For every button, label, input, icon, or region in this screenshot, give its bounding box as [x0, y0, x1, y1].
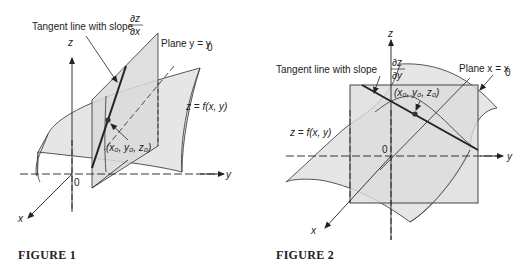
figures-canvas: Tangent line with slope ∂z ∂x Plane y = …: [0, 0, 530, 268]
slope-den-2: ∂y: [392, 70, 403, 81]
axis-z-1: z: [67, 37, 73, 48]
plane-label-2: Plane x = x: [459, 63, 509, 74]
axis-y-1: y: [225, 169, 232, 180]
point-label-1: (x₀, y₀, z₀): [106, 142, 151, 153]
axis-z-2: z: [387, 28, 393, 39]
origin-2: 0: [382, 144, 388, 155]
surface-label-1: z = f(x, y): [185, 101, 227, 112]
caption-2: FIGURE 2: [276, 248, 334, 262]
axis-y-2: y: [506, 151, 513, 162]
point-label-2: (x₀, y₀, z₀): [394, 87, 439, 98]
tangent-label-2: Tangent line with slope: [276, 64, 378, 75]
slope-num-2: ∂z: [392, 57, 402, 68]
point-1: [105, 117, 110, 122]
plane-sub-1: 0: [207, 42, 213, 53]
slope-num-1: ∂z: [130, 13, 140, 24]
axis-x-1: x: [17, 213, 24, 224]
figure-2: Tangent line with slope ∂z ∂y Plane x = …: [276, 28, 513, 262]
point-2: [412, 111, 417, 116]
surface-label-2: z = f(x, y): [289, 127, 331, 138]
caption-1: FIGURE 1: [18, 248, 76, 262]
figure-1: Tangent line with slope ∂z ∂x Plane y = …: [17, 13, 232, 262]
slope-den-1: ∂x: [130, 26, 141, 37]
tangent-label-1: Tangent line with slope: [32, 21, 134, 32]
axis-x-2: x: [310, 225, 317, 236]
origin-1: 0: [74, 177, 80, 188]
plane-x0: [350, 85, 478, 203]
plane-sub-2: 0: [505, 67, 511, 78]
plane-label-1: Plane y = y: [161, 38, 211, 49]
